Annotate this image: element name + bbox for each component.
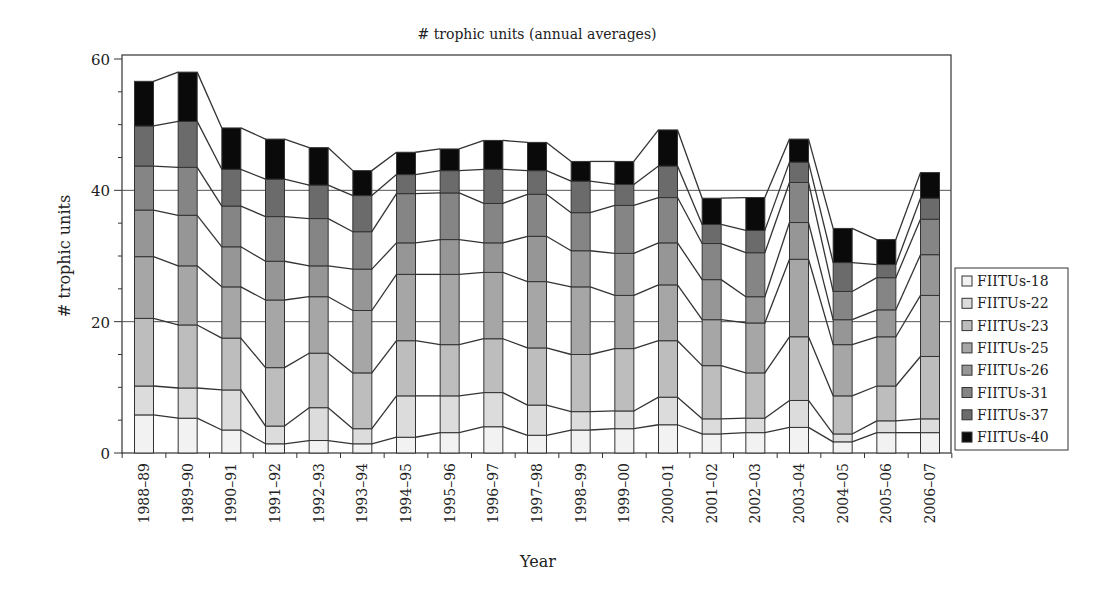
bar-segment bbox=[790, 182, 809, 222]
bar-segment bbox=[222, 247, 241, 287]
bar-segment bbox=[484, 169, 503, 203]
bar-segment bbox=[309, 148, 328, 185]
bar-stack bbox=[702, 198, 721, 453]
bar-segment bbox=[833, 263, 852, 292]
bar-segment bbox=[833, 396, 852, 434]
bar-segment bbox=[440, 193, 459, 240]
bar-segment bbox=[528, 435, 547, 453]
series-connector bbox=[765, 223, 790, 297]
bar-segment bbox=[353, 429, 372, 444]
legend-swatch-icon bbox=[962, 432, 972, 442]
bar-segment bbox=[440, 171, 459, 193]
bar-segment bbox=[397, 243, 416, 275]
bar-segment bbox=[615, 411, 634, 429]
bar-segment bbox=[702, 244, 721, 280]
bar-segment bbox=[397, 175, 416, 194]
bar-segment bbox=[135, 318, 154, 386]
bar-segment bbox=[746, 253, 765, 297]
legend-swatch-icon bbox=[962, 388, 972, 398]
series-connector bbox=[328, 148, 353, 171]
series-connector bbox=[328, 353, 353, 373]
bar-segment bbox=[659, 243, 678, 285]
bar-segment bbox=[571, 287, 590, 355]
bar-segment bbox=[702, 198, 721, 224]
bar-segment bbox=[746, 373, 765, 418]
legend-label: FIITUs-18 bbox=[977, 273, 1049, 289]
bar-segment bbox=[659, 341, 678, 397]
bar-segment bbox=[833, 442, 852, 453]
bar-segment bbox=[877, 421, 896, 433]
bar-segment bbox=[615, 429, 634, 453]
series-connector bbox=[678, 130, 703, 198]
series-connector bbox=[634, 341, 659, 349]
series-connector bbox=[503, 339, 528, 348]
bar-segment bbox=[571, 213, 590, 251]
bar-segment bbox=[921, 198, 940, 219]
bar-segment bbox=[877, 240, 896, 265]
bar-stack bbox=[615, 161, 634, 453]
bar-segment bbox=[877, 265, 896, 278]
bar-segment bbox=[528, 171, 547, 195]
series-connector bbox=[459, 169, 484, 170]
series-connector bbox=[154, 415, 179, 418]
x-tick-label: 1993–94 bbox=[354, 463, 370, 524]
series-connector bbox=[852, 337, 877, 345]
series-connector bbox=[503, 393, 528, 405]
series-connector bbox=[197, 72, 222, 128]
series-connector bbox=[372, 341, 397, 373]
series-connector bbox=[852, 386, 877, 396]
bar-segment bbox=[309, 219, 328, 266]
bar-segment bbox=[397, 437, 416, 453]
series-connector bbox=[634, 425, 659, 429]
bar-segment bbox=[266, 300, 285, 368]
bar-stack bbox=[528, 142, 547, 453]
series-connector bbox=[241, 206, 266, 217]
legend: FIITUs-18FIITUs-22FIITUs-23FIITUs-25FIIT… bbox=[955, 268, 1068, 450]
bar-segment bbox=[222, 430, 241, 453]
series-connector bbox=[328, 219, 353, 232]
series-connector bbox=[547, 194, 572, 212]
x-tick-label: 1990–91 bbox=[223, 463, 239, 523]
series-connector bbox=[809, 337, 834, 396]
series-connector bbox=[678, 285, 703, 320]
bar-segment bbox=[353, 269, 372, 310]
series-connector bbox=[678, 198, 703, 244]
bar-segment bbox=[615, 205, 634, 253]
series-connector bbox=[197, 418, 222, 430]
x-axis: 1988–891989–901990–911991–921992–931993–… bbox=[122, 453, 952, 523]
series-connector bbox=[285, 297, 310, 300]
bar-segment bbox=[615, 349, 634, 411]
bar-segment bbox=[309, 266, 328, 297]
series-connector bbox=[372, 194, 397, 232]
bar-stack bbox=[571, 161, 590, 453]
y-axis: 0204060 bbox=[91, 51, 122, 463]
series-connector bbox=[590, 411, 615, 412]
series-connector bbox=[154, 257, 179, 266]
series-connector bbox=[896, 419, 921, 421]
bar-segment bbox=[266, 179, 285, 216]
legend-swatch-icon bbox=[962, 276, 972, 286]
bar-segment bbox=[222, 338, 241, 390]
series-connector bbox=[459, 193, 484, 204]
bar-segment bbox=[484, 243, 503, 273]
bar-segment bbox=[921, 219, 940, 254]
bar-segment bbox=[353, 311, 372, 373]
bar-stack bbox=[833, 228, 852, 453]
series-connector bbox=[154, 210, 179, 215]
plot-area bbox=[122, 55, 951, 453]
series-connector bbox=[328, 266, 353, 269]
bar-segment bbox=[440, 149, 459, 171]
legend-swatch-icon bbox=[962, 365, 972, 375]
series-connector bbox=[852, 278, 877, 292]
bar-segment bbox=[615, 184, 634, 205]
bar-segment bbox=[702, 419, 721, 434]
series-connector bbox=[285, 261, 310, 266]
series-connector bbox=[852, 421, 877, 434]
bar-segment bbox=[659, 285, 678, 341]
y-tick-label: 20 bbox=[91, 314, 110, 332]
series-connector bbox=[459, 272, 484, 274]
series-connector bbox=[590, 287, 615, 296]
series-connector bbox=[721, 418, 746, 419]
bar-segment bbox=[790, 139, 809, 162]
series-connector bbox=[503, 427, 528, 436]
